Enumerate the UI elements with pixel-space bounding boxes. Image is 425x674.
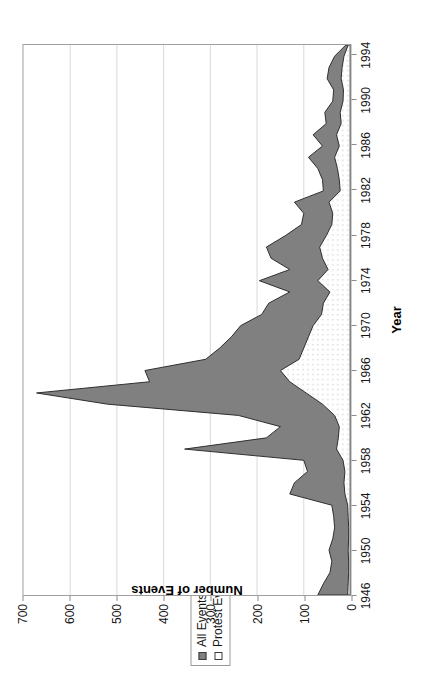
plot-area bbox=[22, 44, 351, 596]
area-all-events bbox=[36, 45, 350, 595]
chart-figure: All Events Protest Events bbox=[0, 0, 425, 674]
y-tick-label: 700 bbox=[15, 604, 29, 638]
y-tick-label: 0 bbox=[344, 604, 358, 638]
x-tick-mark bbox=[351, 235, 356, 236]
legend-swatch-hollow-square-icon bbox=[214, 652, 222, 660]
x-tick-label: 1962 bbox=[358, 396, 372, 436]
x-tick-label: 1990 bbox=[358, 80, 372, 120]
x-tick-mark bbox=[351, 550, 356, 551]
y-tick-label: 200 bbox=[250, 604, 264, 638]
plot-wrapper: 0100200300400500600700 Number of Events … bbox=[22, 44, 351, 596]
y-tick-label: 600 bbox=[62, 604, 76, 638]
x-tick-mark bbox=[351, 505, 356, 506]
y-axis-title: Number of Events bbox=[22, 583, 351, 598]
x-tick-label: 1958 bbox=[358, 441, 372, 481]
x-tick-mark bbox=[351, 280, 356, 281]
legend-swatch-filled-square-icon bbox=[198, 652, 206, 660]
x-tick-label: 1946 bbox=[358, 576, 372, 616]
x-tick-label: 1970 bbox=[358, 306, 372, 346]
y-tick-label: 300 bbox=[203, 604, 217, 638]
x-tick-label: 1982 bbox=[358, 170, 372, 210]
x-tick-mark bbox=[351, 54, 356, 55]
x-tick-label: 1994 bbox=[358, 35, 372, 75]
x-tick-label: 1978 bbox=[358, 216, 372, 256]
y-tick-label: 100 bbox=[297, 604, 311, 638]
x-tick-mark bbox=[351, 370, 356, 371]
x-tick-label: 1950 bbox=[358, 531, 372, 571]
x-tick-label: 1966 bbox=[358, 351, 372, 391]
x-tick-mark bbox=[351, 415, 356, 416]
chart-page: All Events Protest Events bbox=[0, 0, 425, 674]
x-tick-label: 1954 bbox=[358, 486, 372, 526]
x-tick-mark bbox=[351, 144, 356, 145]
x-axis-title: Year bbox=[388, 44, 403, 596]
figure-rotator: All Events Protest Events bbox=[0, 0, 425, 674]
x-tick-mark bbox=[351, 460, 356, 461]
x-tick-mark bbox=[351, 189, 356, 190]
x-tick-label: 1974 bbox=[358, 261, 372, 301]
x-tick-label: 1986 bbox=[358, 125, 372, 165]
x-tick-mark bbox=[351, 325, 356, 326]
chart-canvas bbox=[23, 45, 350, 595]
y-tick-label: 500 bbox=[109, 604, 123, 638]
x-tick-mark bbox=[351, 595, 356, 596]
x-tick-mark bbox=[351, 99, 356, 100]
y-tick-label: 400 bbox=[156, 604, 170, 638]
